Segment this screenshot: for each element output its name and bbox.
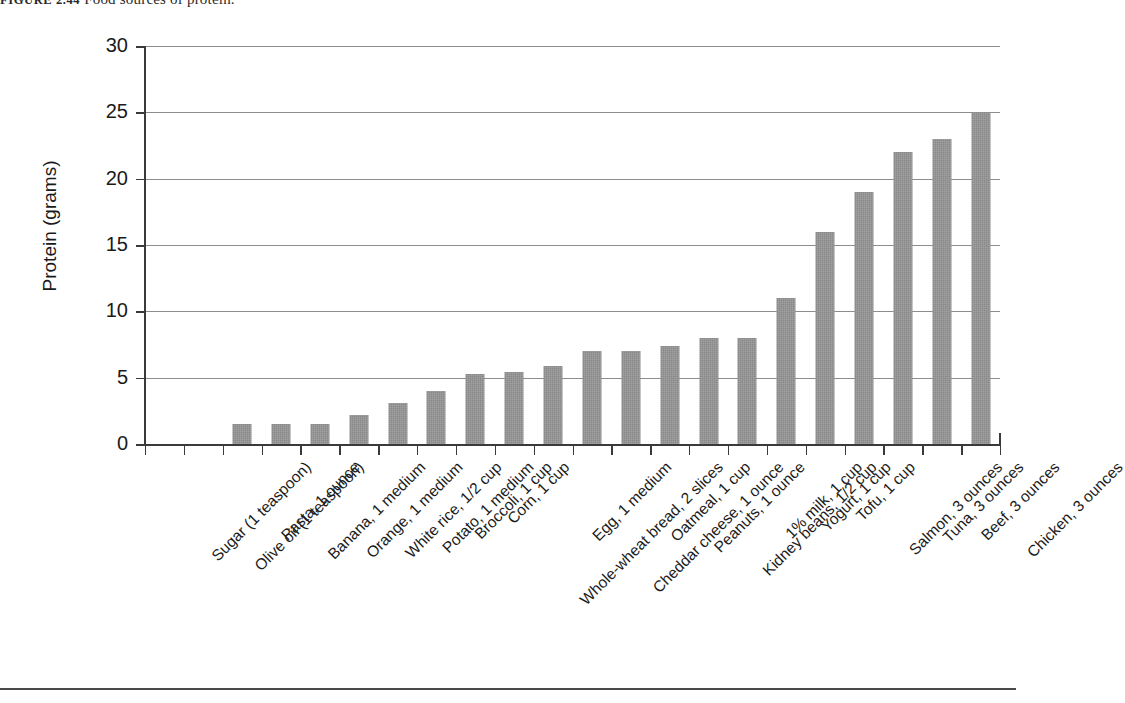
x-axis-tick: [650, 444, 651, 455]
bar-slot: [883, 46, 922, 444]
x-axis-label: Cheddar cheese, 1 ounce: [650, 459, 786, 595]
bar[interactable]: [660, 346, 679, 444]
y-axis-tick-label: 10: [70, 300, 128, 320]
bar[interactable]: [466, 374, 485, 444]
x-axis-tick: [1000, 444, 1001, 455]
y-axis-tick-labels: 302520151050: [66, 0, 128, 703]
x-axis-tick: [728, 444, 729, 455]
bar[interactable]: [310, 424, 329, 444]
bar-slot: [145, 46, 184, 444]
bar-slot: [495, 46, 534, 444]
bar-slot: [456, 46, 495, 444]
y-axis-tick: [136, 179, 145, 181]
bars-layer: [145, 46, 1000, 444]
bar-slot: [689, 46, 728, 444]
y-axis-tick: [136, 46, 145, 48]
bar[interactable]: [971, 112, 990, 444]
bar-slot: [223, 46, 262, 444]
bar-slot: [339, 46, 378, 444]
y-axis-tick: [136, 245, 145, 247]
bar[interactable]: [544, 366, 563, 444]
y-axis-tick: [136, 444, 145, 446]
bar[interactable]: [505, 372, 524, 444]
bar-slot: [184, 46, 223, 444]
bar-slot: [534, 46, 573, 444]
x-axis-tick: [806, 444, 807, 455]
bar[interactable]: [932, 139, 951, 444]
bar[interactable]: [893, 152, 912, 444]
y-axis-title: Protein (grams): [39, 131, 61, 321]
x-axis-tick: [495, 444, 496, 455]
x-axis-tick: [417, 444, 418, 455]
bar-slot: [650, 46, 689, 444]
bar[interactable]: [777, 298, 796, 444]
x-axis-tick: [767, 444, 768, 455]
bar[interactable]: [621, 351, 640, 444]
bar-slot: [728, 46, 767, 444]
bar-slot: [961, 46, 1000, 444]
x-axis-ticks: [145, 444, 1000, 456]
y-axis-tick-label: 5: [70, 367, 128, 387]
x-axis-tick: [611, 444, 612, 455]
bar[interactable]: [854, 192, 873, 444]
bar-slot: [767, 46, 806, 444]
bar[interactable]: [582, 351, 601, 444]
x-axis-tick: [378, 444, 379, 455]
x-axis-tick: [223, 444, 224, 455]
bar-slot: [845, 46, 884, 444]
x-axis-tick: [300, 444, 301, 455]
x-axis-tick: [262, 444, 263, 455]
x-axis-tick: [883, 444, 884, 455]
x-axis-tick: [845, 444, 846, 455]
bar[interactable]: [699, 338, 718, 444]
y-axis-tick-label: 15: [70, 234, 128, 254]
x-axis-tick: [339, 444, 340, 455]
x-axis-right-cap: [999, 433, 1001, 445]
bar-slot: [611, 46, 650, 444]
y-axis-tick: [136, 112, 145, 114]
x-axis-tick: [145, 444, 146, 455]
bar[interactable]: [388, 403, 407, 444]
bar[interactable]: [272, 424, 291, 444]
bar[interactable]: [427, 391, 446, 444]
bar-slot: [806, 46, 845, 444]
bar-slot: [573, 46, 612, 444]
bar-slot: [378, 46, 417, 444]
y-axis-tick-label: 25: [70, 101, 128, 121]
bar[interactable]: [738, 338, 757, 444]
x-axis-tick: [689, 444, 690, 455]
x-axis-tick: [922, 444, 923, 455]
x-axis-tick: [456, 444, 457, 455]
bar-slot: [417, 46, 456, 444]
x-axis-tick: [573, 444, 574, 455]
y-axis-tick: [136, 378, 145, 380]
y-axis-tick-label: 30: [70, 35, 128, 55]
bar-slot: [262, 46, 301, 444]
y-axis-tick-label: 20: [70, 168, 128, 188]
bottom-divider: [0, 688, 1016, 690]
bar-slot: [922, 46, 961, 444]
x-axis-tick: [534, 444, 535, 455]
bar[interactable]: [816, 232, 835, 444]
bar[interactable]: [233, 424, 252, 444]
y-axis-tick-label: 0: [70, 433, 128, 453]
x-axis-tick: [184, 444, 185, 455]
x-axis-labels: Sugar (1 teaspoon)Olive oil (1 teaspoon)…: [145, 459, 1000, 639]
y-axis-tick: [136, 311, 145, 313]
bar[interactable]: [349, 415, 368, 444]
x-axis-label: Salmon, 3 ounces: [906, 459, 1005, 558]
x-axis-tick: [961, 444, 962, 455]
bar-slot: [300, 46, 339, 444]
